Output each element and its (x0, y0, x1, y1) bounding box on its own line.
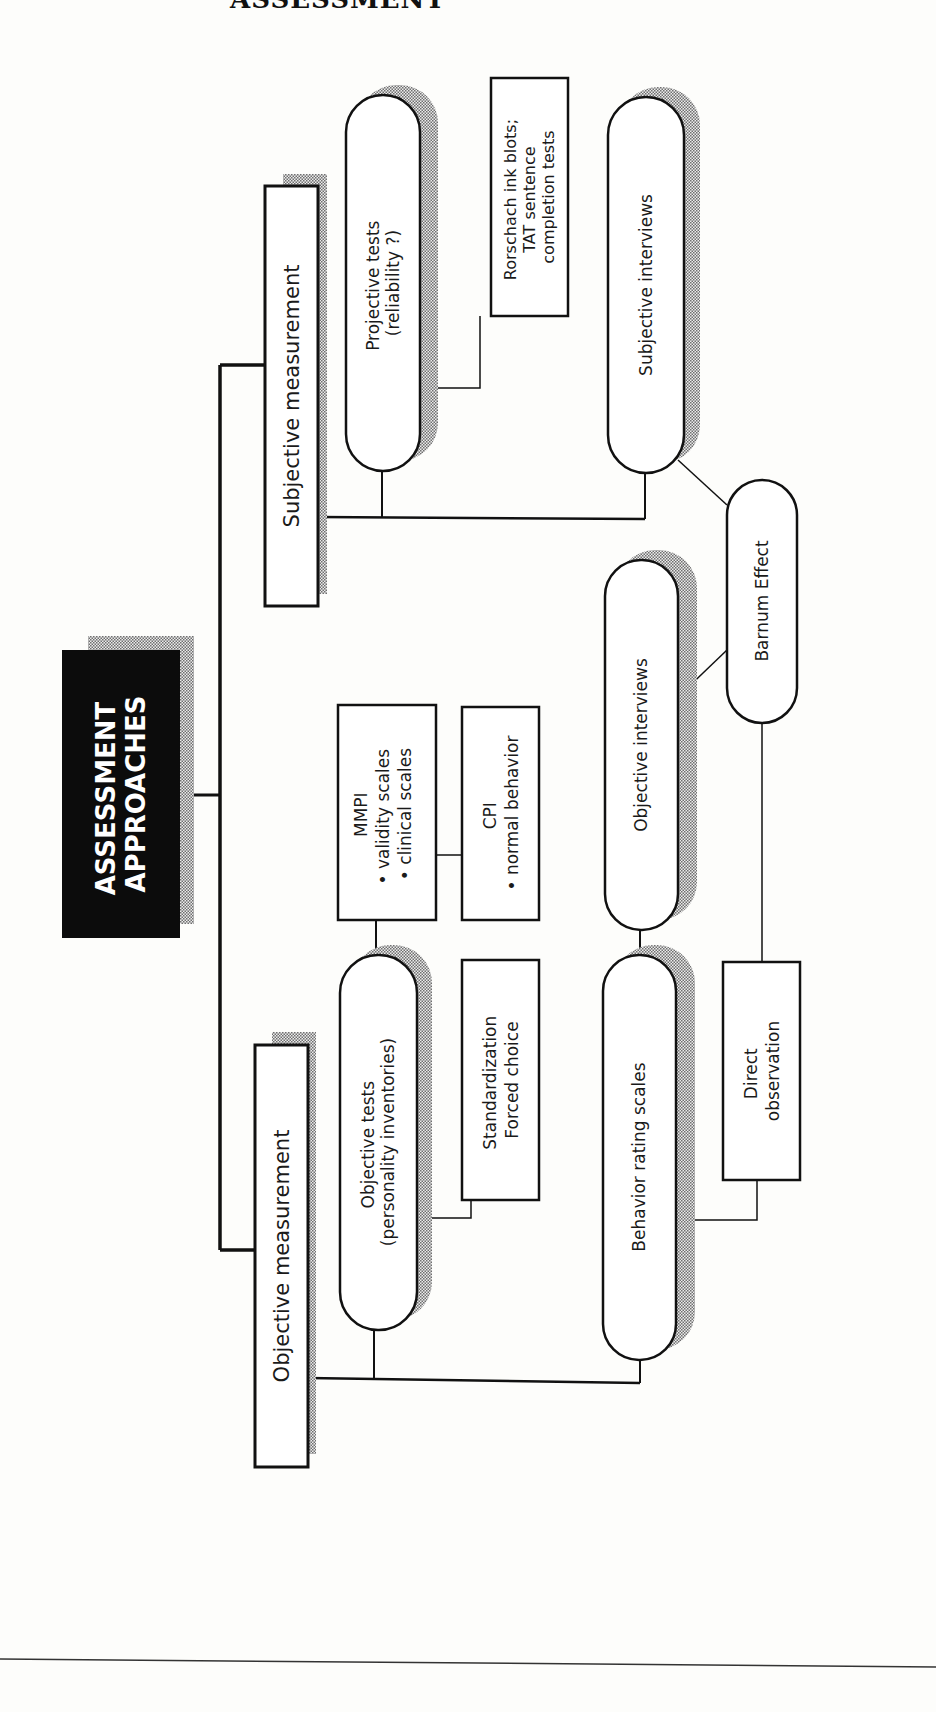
rorschach-line-1: Rorschach ink blots; (501, 119, 520, 280)
rorschach-node: Rorschach ink blots; TAT sentence comple… (491, 78, 568, 316)
rorschach-line-2: TAT sentence (520, 146, 539, 253)
barnum-effect-label: Barnum Effect (752, 540, 772, 662)
subjective-interviews-label: Subjective interviews (636, 194, 656, 376)
objective-tests-line-2: (personality inventories) (378, 1038, 398, 1246)
cpi-line-2: • normal behavior (502, 735, 522, 890)
assessment-approaches-diagram: ASSESSMENT APPROACHES Subjective measure… (0, 0, 936, 1712)
subjective-measurement-node: Subjective measurement (265, 174, 327, 606)
mmpi-line-3: • clinical scales (395, 748, 415, 880)
mmpi-node: MMPI • validity scales • clinical scales (338, 705, 436, 920)
behavior-rating-scales-label: Behavior rating scales (629, 1062, 649, 1251)
barnum-effect-node: Barnum Effect (727, 480, 797, 723)
direct-observation-line-1: Direct (741, 1048, 761, 1099)
subjective-interviews-node: Subjective interviews (608, 87, 700, 473)
rorschach-line-3: completion tests (539, 130, 558, 263)
connector-subjective-bus (318, 517, 645, 519)
objective-interviews-node: Objective interviews (605, 550, 697, 930)
mmpi-line-1: MMPI (351, 792, 371, 837)
cpi-node: CPI • normal behavior (462, 707, 539, 920)
title-node: ASSESSMENT APPROACHES (62, 636, 194, 938)
footer-rule (0, 1659, 936, 1667)
objective-measurement-label: Objective measurement (270, 1130, 294, 1383)
objective-tests-node: Objective tests (personality inventories… (340, 945, 432, 1330)
subjective-measurement-label: Subjective measurement (280, 265, 304, 528)
objective-measurement-node: Objective measurement (255, 1032, 316, 1467)
projective-tests-node: Projective tests (reliability ?) (346, 85, 438, 471)
direct-observation-line-2: observation (763, 1021, 783, 1122)
standardization-line-2: Forced choice (502, 1021, 522, 1138)
title-line-1: ASSESSMENT (91, 701, 121, 895)
svg-text:ASSESSMENT APPROACHES: ASSESSMENT APPROACHES (91, 693, 151, 896)
svg-text:Projective tests (reliab: Projective tests (reliability ?) (363, 215, 403, 351)
projective-tests-line-2: (reliability ?) (383, 230, 403, 336)
mmpi-line-2: • validity scales (373, 749, 393, 885)
objective-interviews-label: Objective interviews (631, 658, 651, 832)
objective-tests-line-1: Objective tests (358, 1081, 378, 1209)
connector-objective-bus (308, 1378, 640, 1383)
standardization-line-1: Standardization (480, 1016, 500, 1150)
connector-subjective-barnum (678, 460, 727, 505)
direct-observation-node: Direct observation (723, 962, 800, 1180)
cpi-line-1: CPI (480, 802, 500, 829)
standardization-node: Standardization Forced choice (462, 960, 539, 1200)
behavior-rating-scales-node: Behavior rating scales (603, 945, 695, 1360)
projective-tests-line-1: Projective tests (363, 220, 383, 350)
title-line-2: APPROACHES (121, 695, 151, 892)
